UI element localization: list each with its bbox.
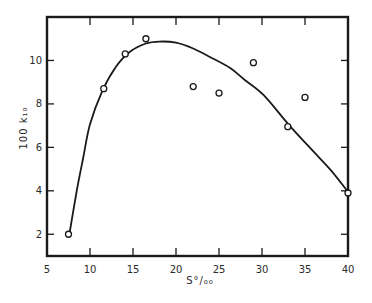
x-tick-label: 30 — [256, 264, 269, 275]
y-tick-label: 4 — [36, 185, 42, 196]
x-tick-label: 20 — [170, 264, 183, 275]
x-tick-label: 25 — [213, 264, 226, 275]
x-axis-tick-labels: 510152025303540 — [44, 264, 355, 275]
data-points — [66, 36, 352, 238]
x-tick-label: 40 — [342, 264, 355, 275]
y-tick-label: 6 — [36, 142, 42, 153]
data-point — [302, 94, 308, 100]
y-axis-label: 100 k₁₀ — [18, 106, 29, 149]
y-axis-tick-labels: 246810 — [29, 55, 42, 240]
chart: 510152025303540 246810 S°/₀₀ 100 k₁₀ — [0, 0, 372, 303]
y-axis-ticks — [47, 60, 348, 234]
x-tick-label: 10 — [84, 264, 97, 275]
plot-frame — [47, 17, 348, 256]
x-axis-label: S°/₀₀ — [186, 275, 214, 286]
data-point — [66, 231, 72, 237]
data-point — [143, 36, 149, 42]
data-point — [122, 51, 128, 57]
x-tick-label: 5 — [44, 264, 50, 275]
data-point — [285, 124, 291, 130]
y-tick-label: 8 — [36, 98, 42, 109]
data-point — [216, 90, 222, 96]
y-tick-label: 2 — [36, 229, 42, 240]
y-tick-label: 10 — [29, 55, 42, 66]
data-point — [101, 86, 107, 92]
data-point — [345, 190, 351, 196]
x-tick-label: 35 — [299, 264, 312, 275]
x-tick-label: 15 — [127, 264, 140, 275]
data-point — [190, 84, 196, 90]
fitted-curve-line — [69, 41, 348, 234]
data-point — [250, 60, 256, 66]
